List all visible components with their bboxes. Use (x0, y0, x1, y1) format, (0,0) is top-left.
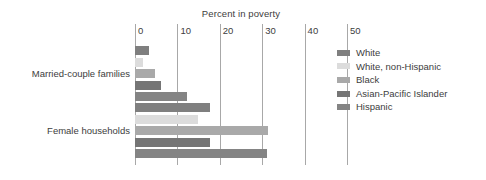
category-axis-labels: Married-couple familiesFemale households (0, 24, 130, 165)
chart-legend: WhiteWhite, non-HispanicBlackAsian-Pacif… (337, 46, 486, 114)
bar (135, 126, 268, 135)
legend-label: Hispanic (356, 102, 392, 112)
legend-label: White, non-Hispanic (356, 62, 441, 72)
legend-item: White (337, 46, 486, 60)
legend-swatch-icon (337, 77, 350, 83)
bar (135, 58, 143, 67)
legend-item: Asian-Pacific Islander (337, 87, 486, 101)
legend-label: Asian-Pacific Islander (356, 89, 447, 99)
bar (135, 92, 187, 101)
bar (135, 81, 161, 90)
legend-item: Hispanic (337, 100, 486, 114)
legend-swatch-icon (337, 50, 350, 56)
legend-label: White (356, 48, 380, 58)
legend-item: White, non-Hispanic (337, 60, 486, 74)
bar (135, 115, 198, 124)
bar (135, 138, 210, 147)
bars-layer (135, 24, 347, 165)
chart-title: Percent in poverty (135, 8, 347, 19)
poverty-bar-chart: Percent in poverty Married-couple famili… (0, 0, 486, 180)
legend-swatch-icon (337, 104, 350, 110)
bar (135, 103, 210, 112)
plot-area: 01020304050 (135, 24, 347, 165)
category-label: Female households (47, 125, 130, 136)
legend-swatch-icon (337, 63, 350, 69)
legend-item: Black (337, 73, 486, 87)
bar (135, 149, 267, 158)
category-label: Married-couple families (32, 68, 130, 79)
bar (135, 46, 149, 55)
x-tick-label-50: 50 (347, 25, 361, 36)
bar (135, 69, 155, 78)
legend-label: Black (356, 75, 379, 85)
legend-swatch-icon (337, 91, 350, 97)
